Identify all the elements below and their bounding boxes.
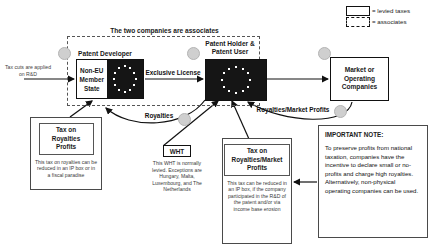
step-badge-5 [334, 105, 347, 118]
eu-star-icon [135, 78, 137, 80]
legend-label-levied-taxes: = levied taxes [372, 7, 410, 14]
eu-star-icon [242, 68, 244, 70]
eu-star-icon [118, 67, 120, 69]
title-line-2: Royalties/Market [228, 156, 286, 165]
eu-star-icon [242, 90, 244, 92]
title-line-1: Tax on [228, 147, 286, 156]
eu-star-icon [223, 86, 225, 88]
state-line-2: Member [80, 75, 105, 84]
eu-star-icon [247, 72, 249, 74]
step-badge-3 [318, 47, 331, 60]
eu-star-icon [118, 89, 120, 91]
panel-wht-title: WHT [163, 145, 191, 157]
patent-holder-node[interactable] [205, 59, 267, 101]
eu-star-icon [113, 78, 115, 80]
market-line-1: Market or [342, 66, 378, 75]
legend-label-associates: = associates [372, 18, 407, 25]
edge-label-exclusive-license: Exclusive License [137, 69, 209, 76]
dashed-rectangle-icon [346, 17, 370, 27]
associates-frame-caption: The two companies are associates [82, 27, 247, 34]
eu-star-icon [133, 84, 135, 86]
title-line-1: Tax on [43, 126, 90, 135]
step-badge-4 [178, 113, 191, 126]
title-line-2: Royalties [43, 135, 90, 144]
legend-item-levied-taxes: = levied taxes [346, 5, 434, 16]
market-operating-companies-node[interactable]: Market or Operating Companies [330, 57, 389, 101]
eu-flag-icon [107, 60, 143, 98]
title-line-3: Profits [43, 143, 90, 152]
eu-star-icon [114, 84, 116, 86]
eu-star-icon [235, 92, 237, 94]
panel-tax-on-royalties-title: Tax on Royalties Profits [39, 123, 94, 155]
eu-star-icon [223, 72, 225, 74]
step-badge-1 [58, 47, 71, 60]
title-line-3: Profits [228, 164, 286, 173]
eu-star-icon [114, 72, 116, 74]
step-badge-2 [187, 47, 200, 60]
patent-holder-caption: Patent Holder & Patent User [190, 40, 270, 56]
eu-star-icon [129, 89, 131, 91]
legend-item-associates: = associates [346, 16, 434, 27]
panel-important-note-body: To preserve profits from national taxati… [319, 138, 427, 196]
panel-tax-rmp-title: Tax on Royalties/Market Profits [224, 144, 290, 176]
patent-holder-caption-line-1: Patent Holder & [190, 40, 270, 48]
panel-wht: WHT This WHT is normally levied. Excepti… [141, 145, 213, 205]
state-line-1: Non-EU [80, 66, 103, 75]
panel-important-note: IMPORTANT NOTE: To preserve profits from… [318, 125, 428, 238]
patent-developer-state-label: Non-EU Member State [77, 60, 107, 98]
eu-star-icon [228, 90, 230, 92]
eu-star-icon [124, 65, 126, 67]
panel-tax-on-royalties-body: This tax on royalties can be reduced in … [31, 158, 101, 182]
eu-star-icon [221, 79, 223, 81]
edge-wht-to-holder [163, 101, 218, 146]
state-line-3: State [84, 84, 100, 93]
edge-label-tax-cuts: Tax cuts are applied on R&D [4, 64, 52, 78]
panel-tax-rmp-body: This tax can be reduced in an IP box, if… [223, 179, 291, 216]
legend: = levied taxes = associates [346, 5, 434, 27]
diagram-canvas: = levied taxes = associates The two comp… [0, 0, 435, 249]
eu-star-icon [247, 86, 249, 88]
patent-holder-caption-line-2: Patent User [190, 48, 270, 56]
panel-tax-on-royalties-market-profits: Tax on Royalties/Market Profits This tax… [222, 138, 292, 244]
eu-star-icon [235, 66, 237, 68]
panel-wht-body: This WHT is normally levied. Exceptions … [141, 157, 213, 196]
eu-star-icon [228, 68, 230, 70]
edge-label-royalties-market-profits: Royalties/Market Profits [250, 106, 336, 113]
eu-star-icon [124, 91, 126, 93]
solid-rectangle-icon [346, 6, 370, 16]
panel-tax-on-royalties: Tax on Royalties Profits This tax on roy… [30, 117, 102, 190]
patent-developer-node[interactable]: Non-EU Member State [76, 59, 144, 99]
patent-developer-caption: Patent Developer [70, 50, 140, 58]
eu-star-icon [133, 72, 135, 74]
market-line-2: Operating [342, 75, 378, 84]
panel-important-note-title: IMPORTANT NOTE: [319, 126, 427, 138]
market-line-3: Companies [342, 83, 378, 92]
edge-label-royalties: Royalties [134, 112, 184, 119]
eu-star-icon [129, 67, 131, 69]
edge-tax-rmp-to-holder [232, 101, 249, 139]
eu-star-icon [249, 79, 251, 81]
